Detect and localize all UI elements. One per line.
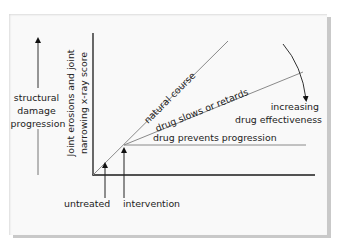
progression-diagram: structural damage progression Joint eros…: [0, 0, 339, 247]
svg-text:Joint erosions and joint: Joint erosions and joint: [65, 49, 76, 157]
structural-damage-label: structural damage progression: [11, 92, 66, 129]
drug-prevents-label: drug prevents progression: [153, 132, 277, 143]
effectiveness-label: increasing drug effectiveness: [235, 101, 322, 125]
svg-text:narrowing x-ray score: narrowing x-ray score: [78, 52, 89, 154]
untreated-label: untreated: [64, 198, 110, 209]
y-axis-label: Joint erosions and joint narrowing x-ray…: [65, 49, 89, 157]
intervention-label: intervention: [123, 198, 180, 209]
effectiveness-curved-arrow: [283, 44, 306, 99]
